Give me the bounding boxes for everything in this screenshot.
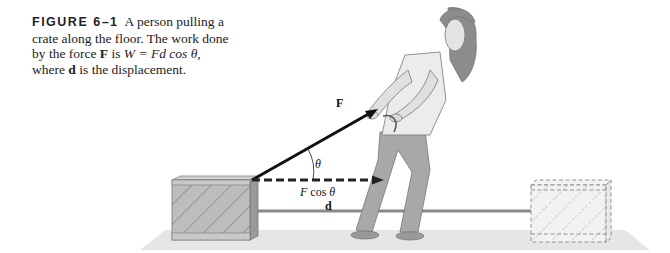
person-pulling <box>351 8 476 240</box>
physics-diagram: F θ F cos θ d <box>0 0 670 253</box>
angle-label: θ <box>315 157 321 171</box>
horizontal-component-arrow <box>252 176 384 185</box>
displacement-arrow <box>214 206 575 216</box>
crate <box>172 176 258 240</box>
angle-arc <box>308 149 314 180</box>
component-label: F cos θ <box>299 185 335 199</box>
displacement-label: d <box>325 199 332 213</box>
force-label: F <box>336 96 343 110</box>
crate-final-position <box>531 180 611 242</box>
